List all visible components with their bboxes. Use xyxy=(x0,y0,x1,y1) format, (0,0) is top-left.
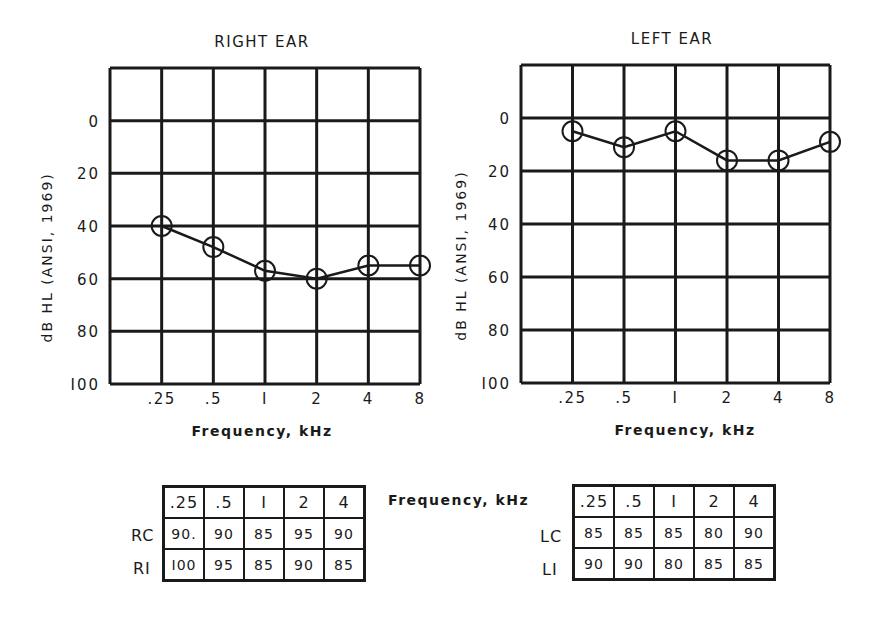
x-tick-label: I xyxy=(262,390,268,408)
y-tick-label: 0 xyxy=(88,113,100,131)
table-cell: 80 xyxy=(654,548,694,580)
y-tick-label: 40 xyxy=(77,218,100,236)
left-ear-title: LEFT EAR xyxy=(631,30,713,48)
x-tick-label: .5 xyxy=(205,390,222,408)
table-header-cell: .25 xyxy=(164,487,205,519)
data-point-circle-marker xyxy=(358,256,378,276)
data-point-circle-marker xyxy=(717,150,737,170)
tables-frequency-caption: Frequency, kHz xyxy=(388,492,529,508)
right-ear-title: RIGHT EAR xyxy=(214,33,309,51)
right-ear-table: .25.5I2490.90859590I0095859085 xyxy=(162,485,366,582)
table-cell: 85 xyxy=(694,548,734,580)
row-label-rc: RC xyxy=(131,526,155,545)
x-tick-label: 4 xyxy=(773,389,784,407)
data-point-circle-marker xyxy=(410,256,430,276)
table-row: 90.90859590 xyxy=(164,518,365,549)
y-tick-label: 20 xyxy=(77,165,100,183)
table-cell: 85 xyxy=(734,548,775,580)
table-cell: 80 xyxy=(694,517,734,548)
left-ear-table: .25.5I2485858580909090808585 xyxy=(572,484,776,581)
table-cell: 95 xyxy=(204,549,244,581)
y-tick-label: 80 xyxy=(77,323,100,341)
table-header-cell: 2 xyxy=(694,486,734,518)
row-label-lc: LC xyxy=(540,527,562,546)
table-header-cell: .25 xyxy=(574,486,615,518)
table-header-cell: .5 xyxy=(614,486,654,518)
table-cell: 85 xyxy=(654,517,694,548)
table-header-row: .25.5I24 xyxy=(574,486,775,518)
y-tick-label: I00 xyxy=(481,375,511,393)
x-tick-label: 4 xyxy=(363,390,374,408)
table-cell: 85 xyxy=(244,549,284,581)
x-tick-label: .5 xyxy=(615,389,632,407)
table-cell: 85 xyxy=(614,517,654,548)
data-point-circle-marker xyxy=(614,137,634,157)
left-ear-y-axis-label: dB HL (ANSI, 1969) xyxy=(453,170,469,340)
x-tick-label: 2 xyxy=(721,389,732,407)
table-cell: 85 xyxy=(324,549,365,581)
y-tick-label: 40 xyxy=(488,216,511,234)
table-cell: 85 xyxy=(574,517,615,548)
table-header-cell: I xyxy=(654,486,694,518)
table-header-cell: 2 xyxy=(284,487,324,519)
table-header-cell: 4 xyxy=(324,487,365,519)
data-point-circle-marker xyxy=(255,261,275,281)
table-cell: I00 xyxy=(164,549,205,581)
left-ear-x-axis-label: Frequency, kHz xyxy=(614,422,755,438)
y-tick-label: 20 xyxy=(488,163,511,181)
data-point-circle-marker xyxy=(563,121,583,141)
audiogram-charts: RIGHT EAR020406080I00.25.5I248Frequency,… xyxy=(0,0,877,470)
x-tick-label: .25 xyxy=(558,389,586,407)
x-tick-label: 8 xyxy=(414,390,425,408)
table-cell: 90. xyxy=(164,518,205,549)
table-cell: 95 xyxy=(284,518,324,549)
right-ear-y-axis-label: dB HL (ANSI, 1969) xyxy=(39,172,55,342)
x-tick-label: I xyxy=(673,389,679,407)
y-tick-label: 60 xyxy=(77,271,100,289)
table-cell: 90 xyxy=(614,548,654,580)
data-point-circle-marker xyxy=(769,150,789,170)
audiogram-figure: RIGHT EAR020406080I00.25.5I248Frequency,… xyxy=(0,0,877,625)
table-cell: 90 xyxy=(324,518,365,549)
data-point-circle-marker xyxy=(820,132,840,152)
right-ear-x-axis-label: Frequency, kHz xyxy=(191,423,332,439)
right-ear-audiogram: RIGHT EAR020406080I00.25.5I248Frequency,… xyxy=(39,33,430,439)
left-ear-threshold-line xyxy=(573,131,831,160)
x-tick-label: .25 xyxy=(147,390,175,408)
table-header-cell: I xyxy=(244,487,284,519)
table-row: I0095859085 xyxy=(164,549,365,581)
table-row: 8585858090 xyxy=(574,517,775,548)
y-tick-label: 60 xyxy=(488,269,511,287)
x-tick-label: 2 xyxy=(311,390,322,408)
table-cell: 90 xyxy=(574,548,615,580)
y-tick-label: 0 xyxy=(499,110,511,128)
data-point-circle-marker xyxy=(307,269,327,289)
row-label-li: LI xyxy=(542,560,558,579)
table-cell: 90 xyxy=(284,549,324,581)
table-header-cell: 4 xyxy=(734,486,775,518)
row-label-ri: RI xyxy=(133,559,151,578)
data-point-circle-marker xyxy=(152,216,172,236)
right-ear-threshold-line xyxy=(162,226,420,279)
data-point-circle-marker xyxy=(203,237,223,257)
data-point-circle-marker xyxy=(666,121,686,141)
table-row: 9090808585 xyxy=(574,548,775,580)
left-ear-audiogram: LEFT EAR020406080I00.25.5I248Frequency, … xyxy=(453,30,840,438)
table-cell: 85 xyxy=(244,518,284,549)
y-tick-label: 80 xyxy=(488,322,511,340)
x-tick-label: 8 xyxy=(824,389,835,407)
y-tick-label: I00 xyxy=(70,376,100,394)
table-cell: 90 xyxy=(734,517,775,548)
table-cell: 90 xyxy=(204,518,244,549)
table-header-row: .25.5I24 xyxy=(164,487,365,519)
table-header-cell: .5 xyxy=(204,487,244,519)
